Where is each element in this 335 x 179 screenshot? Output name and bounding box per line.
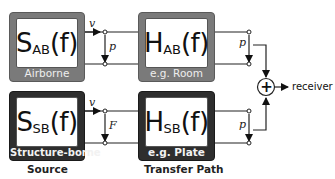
receiver-label: receiver	[292, 81, 333, 92]
path-airborne-block: HAB(f) e.g. Room	[138, 12, 215, 82]
path-structure-block: HSB(f) e.g. Plate	[138, 91, 215, 161]
source-airborne-title: SAB(f)	[16, 28, 78, 58]
transfer-path-column-caption: Transfer Path	[144, 163, 224, 175]
path-airborne-label: e.g. Room	[139, 67, 214, 79]
source-column-caption: Source	[27, 163, 68, 175]
path-airborne-title: HAB(f)	[144, 28, 209, 58]
path-structure-title: HSB(f)	[144, 107, 208, 137]
source-structure-label: Structure-borne	[10, 147, 84, 158]
source-airborne-label: Airborne	[10, 67, 84, 79]
source-structure-title: SSB(f)	[16, 107, 77, 137]
top-source-pressure-label: p	[109, 40, 116, 53]
source-airborne-block: SAB(f) Airborne	[9, 12, 85, 82]
summing-junction: +	[258, 78, 275, 96]
top-output-pressure-label: p	[239, 36, 246, 49]
bottom-output-pressure-label: p	[239, 118, 246, 131]
top-velocity-label: v	[89, 17, 95, 30]
path-structure-label: e.g. Plate	[139, 146, 214, 158]
source-structure-block: SSB(f) Structure-borne	[9, 91, 85, 161]
bottom-velocity-label: v	[89, 96, 95, 109]
bottom-force-label: F	[109, 119, 117, 132]
